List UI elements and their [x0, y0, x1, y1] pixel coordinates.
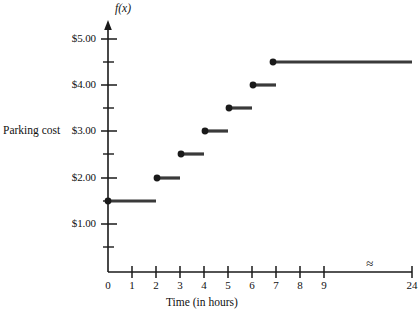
- endpoint-dot-2-50: [178, 151, 185, 158]
- step-segments-group: [108, 62, 412, 201]
- y-axis-title: Parking cost: [3, 124, 60, 136]
- x-tick-label-9: 9: [314, 279, 334, 291]
- x-tick-label-4: 4: [194, 279, 214, 291]
- x-tick-label-2: 2: [146, 279, 166, 291]
- x-tick-label-5: 5: [218, 279, 238, 291]
- x-tick-label-24: 24: [400, 279, 420, 291]
- endpoint-dot-3-50: [226, 105, 233, 112]
- chart-canvas: [0, 0, 420, 314]
- x-tick-label-0: 0: [98, 279, 118, 291]
- x-tick-label-1: 1: [122, 279, 142, 291]
- y-tick-label-5-00: $5.00: [44, 32, 96, 44]
- y-axis-function-symbol: f(x): [115, 2, 131, 14]
- endpoint-dot-4-00: [250, 82, 257, 89]
- step-endpoint-dots-group: [105, 59, 277, 205]
- y-axis-group: [101, 20, 117, 272]
- endpoint-dot-3-00: [202, 128, 209, 135]
- step-function-chart: $5.00 $4.00 $3.00 $2.00 $1.00 0 1 2 3 4 …: [0, 0, 420, 314]
- x-tick-label-8: 8: [290, 279, 310, 291]
- y-axis-arrowhead: [104, 20, 112, 30]
- axis-break-icon: ≈: [366, 256, 373, 272]
- x-tick-label-6: 6: [242, 279, 262, 291]
- y-tick-label-2-00: $2.00: [44, 171, 96, 183]
- endpoint-dot-1-50: [105, 198, 112, 205]
- y-tick-label-4-00: $4.00: [44, 78, 96, 90]
- endpoint-dot-4-50: [270, 59, 277, 66]
- x-axis-title: Time (in hours): [166, 296, 238, 308]
- endpoint-dot-2-00: [154, 175, 161, 182]
- x-tick-label-3: 3: [170, 279, 190, 291]
- x-tick-label-7: 7: [266, 279, 286, 291]
- y-tick-label-1-00: $1.00: [44, 217, 96, 229]
